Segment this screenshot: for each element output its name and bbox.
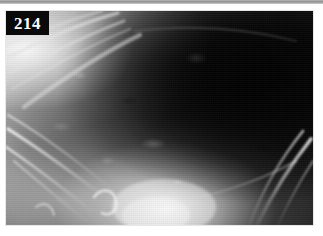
page-top-rule [0,0,323,4]
radiograph-figure-panel: 214 [6,11,313,225]
figure-number-badge: 214 [6,11,49,35]
figure-number-label: 214 [14,15,41,32]
vignette-layer [6,11,313,225]
